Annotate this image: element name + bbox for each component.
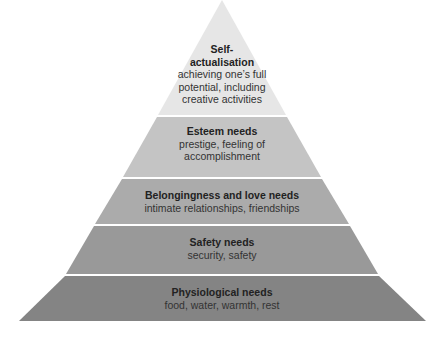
level-title: Self-: [0, 43, 444, 56]
level-description: achieving one’s full: [0, 68, 444, 81]
level-description: accomplishment: [0, 150, 444, 163]
level-title: Physiological needs: [0, 286, 444, 299]
level-description: intimate relationships, friendships: [0, 202, 444, 215]
level-description: security, safety: [0, 249, 444, 262]
level-description: creative activities: [0, 93, 444, 106]
level-title: Esteem needs: [0, 125, 444, 138]
level-description: prestige, feeling of: [0, 138, 444, 151]
physiological-label: Physiological needs food, water, warmth,…: [0, 286, 444, 311]
level-description: potential, including: [0, 81, 444, 94]
esteem-label: Esteem needs prestige, feeling of accomp…: [0, 125, 444, 163]
belonging-label: Belongingness and love needs intimate re…: [0, 189, 444, 214]
level-title: Belongingness and love needs: [0, 189, 444, 202]
safety-label: Safety needs security, safety: [0, 236, 444, 261]
level-title: actualisation: [0, 56, 444, 69]
self-actualisation-label: Self- actualisation achieving one’s full…: [0, 43, 444, 106]
level-description: food, water, warmth, rest: [0, 299, 444, 312]
level-title: Safety needs: [0, 236, 444, 249]
